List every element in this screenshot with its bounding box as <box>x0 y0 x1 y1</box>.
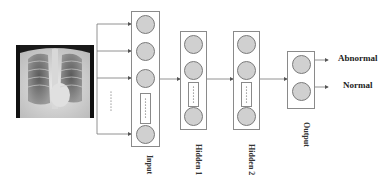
input-layer-label: Input <box>145 155 154 174</box>
hidden1-node <box>184 35 203 54</box>
output-node-normal <box>292 82 311 101</box>
input-layer-box <box>131 11 160 147</box>
hidden1-node <box>184 61 203 80</box>
hidden2-node <box>237 35 256 54</box>
hidden2-layer-box <box>233 31 260 130</box>
abnormal-label: Abnormal <box>338 53 378 63</box>
ellipsis-box <box>188 82 199 107</box>
hidden2-node <box>237 61 256 80</box>
input-node <box>136 125 155 144</box>
ellipsis-box <box>241 82 252 107</box>
hidden2-layer-label: Hidden 2 <box>247 144 256 175</box>
input-node <box>136 15 155 34</box>
input-node <box>136 69 155 88</box>
output-node-abnormal <box>292 55 311 74</box>
input-node <box>136 42 155 61</box>
normal-label: Normal <box>343 80 373 90</box>
hidden1-layer-box <box>180 31 207 130</box>
hidden2-node <box>237 107 256 126</box>
output-layer-label: Output <box>302 122 311 147</box>
ellipsis-box <box>140 93 151 124</box>
output-layer-box <box>287 51 315 109</box>
hidden1-node <box>184 107 203 126</box>
hidden1-layer-label: Hidden 1 <box>194 144 203 175</box>
